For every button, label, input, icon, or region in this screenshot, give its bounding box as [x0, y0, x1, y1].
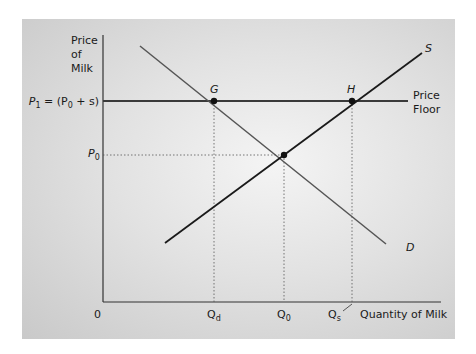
qd-label: Qd [207, 308, 221, 323]
equilibrium-point [281, 152, 287, 158]
qs-label: Qs [328, 308, 341, 323]
x-axis-label: Quantity of Milk [360, 308, 448, 321]
point-g [211, 98, 217, 104]
price-floor-diagram: Price of Milk P1 = (P0 + s) P0 0 Qd Q0 Q… [0, 0, 476, 354]
point-h-label: H [347, 83, 355, 96]
y-axis-label: Price of Milk [71, 34, 101, 75]
demand-label: D [406, 241, 414, 254]
point-g-label: G [210, 83, 219, 96]
origin-label: 0 [94, 308, 101, 321]
p0-label: P0 [88, 147, 100, 162]
supply-curve [165, 53, 422, 243]
price-floor-label: Price Floor [413, 89, 443, 116]
q0-label: Q0 [277, 308, 291, 323]
qs-leader [343, 304, 352, 311]
point-h [349, 98, 355, 104]
demand-curve [140, 46, 386, 244]
supply-label: S [425, 42, 432, 55]
p1-label: P1 = (P0 + s) [29, 95, 99, 110]
